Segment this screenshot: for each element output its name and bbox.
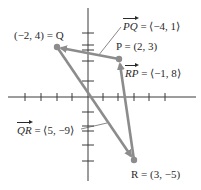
- label-vector-qr: QR = ⟨5, −9⟩: [17, 124, 74, 136]
- label-q-text: (−2, 4) = Q: [14, 29, 64, 41]
- vector-qr-name: QR: [17, 124, 32, 136]
- vector-triangle-diagram: (−2, 4) = Q P = (2, 3) R = (3, −5) PQ = …: [0, 0, 201, 190]
- point-q: [54, 44, 60, 50]
- label-q: (−2, 4) = Q: [14, 29, 64, 41]
- label-p-text: P = (2, 3): [116, 40, 157, 52]
- vector-rp-value: = ⟨−1, 8⟩: [141, 67, 181, 79]
- label-r: R = (3, −5): [131, 168, 180, 180]
- point-r: [131, 157, 137, 163]
- label-vector-rp: RP = ⟨−1, 8⟩: [125, 67, 181, 79]
- label-p: P = (2, 3): [116, 40, 157, 52]
- vector-pq-name: PQ: [123, 20, 138, 32]
- label-vector-pq: PQ = ⟨−4, 1⟩: [123, 20, 180, 32]
- vector-qr: [57, 47, 131, 156]
- vector-qr-value: = ⟨5, −9⟩: [34, 124, 74, 136]
- label-r-text: R = (3, −5): [131, 168, 180, 180]
- point-p: [116, 56, 122, 62]
- vector-pq-value: = ⟨−4, 1⟩: [140, 20, 180, 32]
- vector-rp-name: RP: [125, 67, 138, 79]
